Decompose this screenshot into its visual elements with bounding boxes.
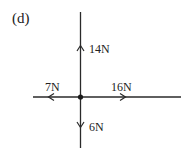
force-label-up: 14N [89, 43, 110, 55]
point-of-application [78, 94, 83, 99]
force-label-down: 6N [89, 121, 104, 133]
force-label-left: 7N [45, 81, 60, 93]
force-label-right: 16N [111, 81, 132, 93]
